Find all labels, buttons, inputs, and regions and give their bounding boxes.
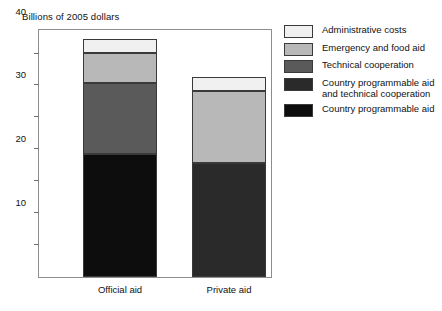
y-axis-tick-label: 40 xyxy=(15,5,26,16)
legend-item[interactable]: Technical cooperation xyxy=(284,59,440,73)
bar-segment[interactable] xyxy=(192,91,266,163)
y-axis-tick: 30 xyxy=(34,180,39,181)
chart-title: Billions of 2005 dollars xyxy=(22,11,119,22)
legend-item-label: Administrative costs xyxy=(322,24,406,36)
chart-legend: Administrative costsEmergency and food a… xyxy=(284,24,440,121)
legend-swatch-icon xyxy=(284,78,313,91)
plot-inner: 10203040506070 Official aidPrivate aid xyxy=(39,30,271,277)
y-axis-tick: 50 xyxy=(34,116,39,117)
y-axis-tick: 60 xyxy=(34,84,39,85)
x-axis-tick-label: Private aid xyxy=(207,284,252,295)
y-axis-tick: 20 xyxy=(34,212,39,213)
legend-swatch-icon xyxy=(284,60,313,73)
y-axis-tick-label: 20 xyxy=(15,133,26,144)
bar-segment[interactable] xyxy=(83,53,157,83)
bar-segment[interactable] xyxy=(83,83,157,154)
legend-item[interactable]: Emergency and food aid xyxy=(284,42,440,56)
legend-item-label: Country programmable aid and technical c… xyxy=(322,77,434,100)
y-axis-tick-label: 10 xyxy=(15,197,26,208)
bar-group[interactable]: Private aid xyxy=(192,28,266,277)
legend-item-label: Country programmable aid xyxy=(322,103,434,115)
chart-figure: Billions of 2005 dollars 10203040506070 … xyxy=(0,0,442,311)
y-axis-tick-label: 30 xyxy=(15,69,26,80)
plot-area: 10203040506070 Official aidPrivate aid xyxy=(38,29,272,278)
legend-swatch-icon xyxy=(284,43,313,56)
bar-segment[interactable] xyxy=(192,77,266,90)
y-axis-tick: 10 xyxy=(34,244,39,245)
bar-group[interactable]: Official aid xyxy=(83,28,157,277)
bar-segment[interactable] xyxy=(192,163,266,277)
legend-item[interactable]: Country programmable aid xyxy=(284,103,440,117)
bar-segment[interactable] xyxy=(83,154,157,277)
y-axis-tick: 70 xyxy=(34,53,39,54)
bar-segment[interactable] xyxy=(83,39,157,52)
x-axis-tick-label: Official aid xyxy=(98,284,142,295)
legend-item-label: Technical cooperation xyxy=(322,59,414,71)
y-axis-tick: 40 xyxy=(34,148,39,149)
legend-swatch-icon xyxy=(284,25,313,38)
legend-item[interactable]: Administrative costs xyxy=(284,24,440,38)
legend-item-label: Emergency and food aid xyxy=(322,42,425,54)
legend-swatch-icon xyxy=(284,104,313,117)
legend-item[interactable]: Country programmable aid and technical c… xyxy=(284,77,440,100)
